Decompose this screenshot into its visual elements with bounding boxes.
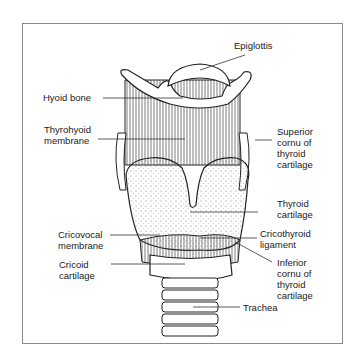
label-trachea: Trachea (243, 302, 278, 313)
label-cricovocal-membrane: Cricovocal membrane (58, 229, 103, 251)
label-epiglottis: Epiglottis (234, 40, 273, 51)
epiglottis-leader (200, 55, 245, 70)
label-cricothyroid-ligament: Cricothyroid ligament (260, 228, 311, 250)
left-superior-cornu (116, 133, 126, 190)
label-thyroid-cartilage: Thyroid cartilage (277, 198, 313, 220)
label-hyoid-bone: Hyoid bone (43, 92, 91, 103)
cricoid-cartilage-shape (150, 255, 232, 280)
label-thyrohyoid-membrane: Thyrohyoid membrane (44, 124, 91, 146)
label-superior-cornu: Superior cornu of thyroid cartilage (277, 126, 313, 170)
larynx-illustration (0, 0, 359, 358)
label-inferior-cornu: Inferior cornu of thyroid cartilage (277, 257, 313, 301)
label-cricoid-cartilage: Cricoid cartilage (59, 259, 95, 281)
